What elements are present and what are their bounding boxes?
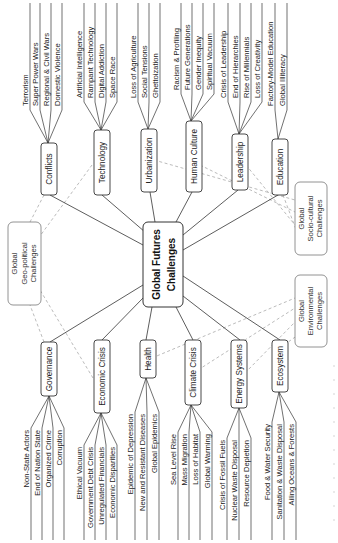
leaf-label: Sea Level Rise xyxy=(169,434,178,485)
leaf-label: Organized Crime xyxy=(44,430,53,487)
branch-health[interactable]: Health xyxy=(140,340,156,378)
branch-governance[interactable]: Governance xyxy=(41,342,57,396)
leaf-label: Resource Depletion xyxy=(242,440,251,507)
branch-label: Leadership xyxy=(236,141,245,182)
group-socio-line3: Challenges xyxy=(315,199,324,237)
leaf-mass-migration[interactable]: Mass Migration xyxy=(180,405,191,540)
branch-label: Health xyxy=(144,347,153,371)
leaf-regional-civil-wars[interactable]: Regional & Civil Wars xyxy=(42,3,51,143)
leaf-label: Non-State Actors xyxy=(22,430,31,488)
leaf-new-and-resistant-diseases[interactable]: New and Resistant Diseases xyxy=(138,378,147,540)
leaf-global-epidemics[interactable]: Global Epidemics xyxy=(146,378,159,540)
group-geo-line2: Geo-political xyxy=(20,242,29,285)
leaf-label: Gender Inequity xyxy=(194,36,203,90)
leaf-label: Crisis of Leadership xyxy=(219,31,228,98)
leaf-label: Corruption xyxy=(55,430,64,465)
leaf-label: Government Debt Crisis xyxy=(86,447,95,528)
branch-energy-systems[interactable]: Energy Systems xyxy=(231,340,247,408)
leaf-label: Loss of Creativity xyxy=(253,40,262,98)
branch-label: Climate Crisis xyxy=(189,347,198,398)
leaf-label: Nuclear Waste Disposal xyxy=(230,440,239,521)
leaf-sanitation-waste-disposal[interactable]: Sanitation & Waste Disposal xyxy=(275,392,284,540)
leaf-label: Unregulated Financials xyxy=(97,447,106,525)
branch-climate-crisis[interactable]: Climate Crisis xyxy=(185,340,201,405)
group-socio-cultural[interactable]: Global Socio-cultural Challenges xyxy=(295,182,327,255)
hub-title-line1: Global Futures xyxy=(151,229,162,300)
leaf-label: Global Epidemics xyxy=(150,414,159,473)
group-geo-political[interactable]: Global Geo-political Challenges xyxy=(8,222,41,305)
leaf-organized-crime[interactable]: Organized Crime xyxy=(44,396,53,540)
global-futures-mind-map: TerrorismSuper Power WarsRegional & Civi… xyxy=(0,0,338,543)
branch-label: Urbanization xyxy=(145,137,154,183)
branch-human-culture[interactable]: Human Culture xyxy=(186,121,202,192)
branch-conflicts[interactable]: Conflicts xyxy=(41,143,57,195)
group-env-line2: Environmental xyxy=(306,286,315,335)
leaf-label: End of Nation State xyxy=(33,430,42,496)
group-environmental[interactable]: Global Environmental Challenges xyxy=(295,275,327,347)
leaf-label: Loss of Habitat xyxy=(191,433,200,485)
hub-title-line2: Challenges xyxy=(166,237,177,291)
branch-label: Energy Systems xyxy=(235,344,244,404)
leaf-label: Loss of Agriculture xyxy=(129,36,138,98)
leaf-resource-depletion[interactable]: Resource Depletion xyxy=(239,408,251,540)
leaf-gender-inequity[interactable]: Gender Inequity xyxy=(191,3,203,121)
leaf-label: Rise of Millennials xyxy=(242,37,251,98)
leaf-label: New and Resistant Diseases xyxy=(138,414,147,511)
group-socio-line1: Global xyxy=(297,207,306,229)
branch-label: Governance xyxy=(45,346,54,391)
leaf-label: Domestic Violence xyxy=(53,43,62,106)
leaf-label: Spiritual Vacuum xyxy=(205,33,214,90)
leaf-label: Crisis of Fossil Fuels xyxy=(218,440,227,510)
leaf-label: Economic Disparities xyxy=(108,447,117,518)
branch-leadership[interactable]: Leadership xyxy=(232,134,248,190)
leaf-label: Space Race xyxy=(108,57,117,98)
leaf-label: Global Illiteracy xyxy=(278,54,287,106)
leaf-unregulated-financials[interactable]: Unregulated Financials xyxy=(97,413,106,540)
branch-urbanization[interactable]: Urbanization xyxy=(141,129,157,192)
leaf-label: Ethical Vacuum xyxy=(75,447,84,499)
branch-label: Ecosystem xyxy=(276,346,285,386)
leaf-label: Rampant Technology xyxy=(86,27,95,98)
leaf-label: Super Power Wars xyxy=(31,42,40,106)
leaf-label: Future Generations xyxy=(183,24,192,90)
leaf-label: Global Warming xyxy=(203,434,212,488)
group-env-line3: Challenges xyxy=(315,292,324,330)
branch-label: Human Culture xyxy=(190,129,199,185)
leaf-label: Artificial Intelligence xyxy=(75,31,84,98)
leaf-label: Food & Water Security xyxy=(263,424,272,500)
hub-node[interactable]: Global Futures Challenges xyxy=(143,222,183,307)
leaf-label: Sanitation & Waste Disposal xyxy=(275,424,284,520)
leaf-loss-of-habitat[interactable]: Loss of Habitat xyxy=(191,405,200,540)
leaf-label: Epidemic of Depression xyxy=(126,414,135,494)
leaf-label: End of Hierarchies xyxy=(231,35,240,98)
branch-economic-crisis[interactable]: Economic Crisis xyxy=(94,340,110,413)
branch-technology[interactable]: Technology xyxy=(94,130,110,195)
branch-education[interactable]: Education xyxy=(272,139,288,195)
leaf-digital-addiction[interactable]: Digital Addiction xyxy=(97,3,106,130)
group-env-line1: Global xyxy=(297,300,306,322)
group-geo-line3: Challenges xyxy=(29,244,38,282)
branch-label: Education xyxy=(276,148,285,185)
group-socio-line2: Socio-cultural xyxy=(306,195,315,241)
branch-label: Technology xyxy=(98,141,107,183)
branch-ecosystem[interactable]: Ecosystem xyxy=(272,340,288,392)
branch-label: Conflicts xyxy=(45,153,54,184)
leaf-label: Terrorism xyxy=(21,74,30,106)
leaf-label: Mass Migration xyxy=(180,434,189,485)
leaf-label: Ghettoization xyxy=(151,53,160,98)
leaf-label: Regional & Civil Wars xyxy=(42,33,51,106)
leaf-global-illiteracy[interactable]: Global Illiteracy xyxy=(278,3,287,139)
leaf-label: Digital Addiction xyxy=(97,44,106,98)
leaf-factory-model-education[interactable]: Factory-Model Education xyxy=(266,3,278,139)
group-geo-line1: Global xyxy=(10,252,19,274)
leaf-label: Racism & Profiling xyxy=(172,28,181,90)
leaf-label: Ailing Oceans & Forests xyxy=(287,424,296,506)
leaf-label: Factory-Model Education xyxy=(266,22,275,106)
branch-label: Economic Crisis xyxy=(98,347,107,406)
leaf-label: Social Tensions xyxy=(140,45,149,98)
leaf-ghettoization[interactable]: Ghettoization xyxy=(148,3,160,129)
leaf-rise-of-millennials[interactable]: Rise of Millennials xyxy=(239,3,251,134)
